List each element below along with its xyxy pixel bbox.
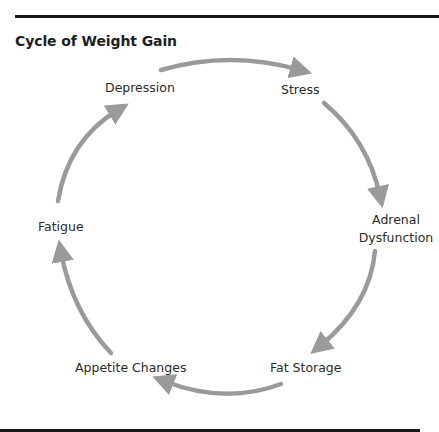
arrow-adrenal-to-fat-storage [320,251,375,346]
node-adrenal-line1: Adrenal [354,211,438,229]
node-depression: Depression [105,80,175,95]
node-appetite-changes: Appetite Changes [75,360,186,375]
arrow-fatigue-to-depression [58,110,118,201]
arrow-appetite-to-fatigue [61,252,111,353]
node-fatigue: Fatigue [38,219,84,234]
node-adrenal-line2: Dysfunction [354,229,438,247]
node-stress: Stress [281,82,319,97]
node-adrenal-dysfunction: Adrenal Dysfunction [354,211,438,247]
node-fat-storage: Fat Storage [270,360,341,375]
arrow-stress-to-adrenal [324,103,380,196]
arrow-fat-storage-to-appetite [164,381,281,394]
arrow-depression-to-stress [161,60,300,70]
